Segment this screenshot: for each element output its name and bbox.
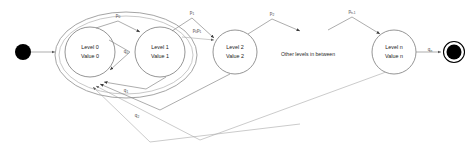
state-level0-line2: Value 0 [81,53,99,59]
state-machine-diagram: Level 0 Value 0 Level 1 Value 1 Level 2 … [0,0,471,154]
state-level0[interactable]: Level 0 Value 0 [65,27,115,77]
other-levels-note: Other levels in between [281,51,335,57]
label-p2: p2 [270,11,275,17]
final-state [444,42,465,63]
state-leveln[interactable]: Level n Value n [372,30,416,74]
edge-level1-to-level0 [104,77,166,89]
label-q0-sub: 0 [126,51,128,55]
svg-text:p0p1: p0p1 [193,28,202,34]
edge-level2-to-next [248,19,300,34]
edge-prev-to-leveln [328,17,380,34]
label-q1: q1 [124,88,129,94]
label-p1-sub: 1 [192,12,194,16]
label-pn-1: pn-1 [348,9,355,15]
state-level2-line1: Level 2 [226,44,243,50]
edge-leveln-to-level0 [96,72,386,140]
svg-text:q0: q0 [124,49,129,55]
state-level0-line1: Level 0 [81,44,98,50]
label-p0p1: p0p1 [193,28,202,34]
diagram-canvas: Level 0 Value 0 Level 1 Value 1 Level 2 … [0,0,471,154]
state-level2[interactable]: Level 2 Value 2 [213,30,257,74]
svg-text:p0: p0 [116,13,121,19]
state-level1[interactable]: Level 1 Value 1 [135,27,185,77]
svg-text:pn-1: pn-1 [348,9,355,15]
svg-text:q1: q1 [124,88,129,94]
label-p0-sub: 0 [118,15,120,19]
state-leveln-line2: Value n [385,53,403,59]
label-p1: p1 [190,10,195,16]
state-level1-line1: Level 1 [151,44,168,50]
label-q0: q0 [124,49,129,55]
svg-text:q2: q2 [135,113,140,119]
state-level2-line2: Value 2 [226,53,244,59]
label-q2: q2 [135,113,140,119]
initial-pseudostate [15,44,31,60]
label-q1-sub: 1 [126,90,128,94]
label-p0: p0 [116,13,121,19]
state-leveln-line1: Level n [385,44,402,50]
label-q2-sub: 2 [137,115,139,119]
svg-text:p2: p2 [270,11,275,17]
label-qn-sub: n [430,49,432,53]
label-p2-sub: 2 [272,13,274,17]
label-p0p1-sub2: 1 [200,30,202,34]
state-level1-line2: Value 1 [151,53,169,59]
edge-level2-to-level0 [100,74,230,110]
label-pn-1-sub: n-1 [351,11,356,15]
svg-text:p1: p1 [190,10,195,16]
